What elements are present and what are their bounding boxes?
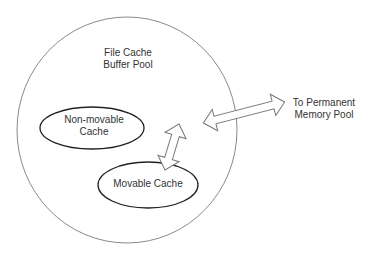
target-label-line1: To Permanent [293, 97, 355, 109]
non-movable-label-line1: Non-movable [64, 114, 123, 126]
movable-label-text: Movable Cache [113, 178, 182, 190]
permanent-memory-pool-label: To Permanent Memory Pool [293, 97, 355, 121]
non-movable-label-line2: Cache [64, 126, 123, 138]
movable-cache-label: Movable Cache [113, 178, 182, 190]
file-cache-pool-label: File Cache Buffer Pool [103, 47, 152, 71]
double-arrow-icon [201, 91, 288, 133]
non-movable-cache-label: Non-movable Cache [64, 114, 123, 138]
target-label-line2: Memory Pool [293, 109, 355, 121]
pool-label-line2: Buffer Pool [103, 59, 152, 71]
diagram-shapes [0, 0, 370, 255]
diagram-canvas: File Cache Buffer Pool Non-movable Cache… [0, 0, 370, 255]
pool-label-line1: File Cache [103, 47, 152, 59]
